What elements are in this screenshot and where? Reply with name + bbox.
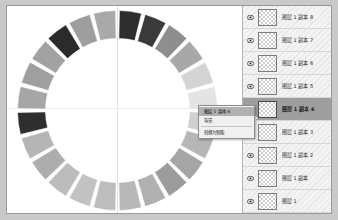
layer-row[interactable]: 图层 1 副本 6 [243, 52, 331, 75]
layers-panel[interactable]: 图层 1 副本 8 图层 1 副本 7 图层 1 副本 6 图层 1 副本 5 … [242, 6, 331, 213]
eye-icon[interactable] [243, 176, 258, 181]
eye-icon[interactable] [243, 38, 258, 43]
layer-name-label: 图层 1 副本 2 [282, 151, 331, 158]
eye-icon[interactable] [243, 84, 258, 89]
layer-thumbnail[interactable] [258, 78, 277, 95]
layer-name-label: 图层 1 副本 6 [282, 59, 331, 66]
eye-icon[interactable] [243, 15, 258, 20]
document-window-frame: 图层 1 副本 8 图层 1 副本 7 图层 1 副本 6 图层 1 副本 5 … [6, 5, 332, 214]
donut-ring-svg [15, 8, 220, 213]
context-menu-item[interactable]: 图层 1 副本 4 [199, 107, 254, 116]
eye-icon[interactable] [243, 199, 258, 204]
ring-segment[interactable] [93, 180, 116, 210]
eye-icon[interactable] [243, 61, 258, 66]
layer-row[interactable]: 图层 1 副本 7 [243, 29, 331, 52]
context-menu-item[interactable]: 背景 [199, 116, 254, 125]
layer-name-label: 图层 1 副本 4 [282, 105, 331, 112]
layer-thumbnail[interactable] [258, 147, 277, 164]
layer-name-label: 图层 1 副本 7 [282, 36, 331, 43]
layer-row[interactable]: 图层 1 副本 [243, 167, 331, 190]
layer-name-label: 图层 1 副本 [282, 174, 331, 181]
context-menu-separator [201, 126, 252, 127]
layer-thumbnail[interactable] [258, 124, 277, 141]
layer-row[interactable]: 图层 1 副本 2 [243, 144, 331, 167]
layer-row[interactable]: 图层 1 副本 8 [243, 6, 331, 29]
layer-thumbnail[interactable] [258, 32, 277, 49]
eye-icon[interactable] [243, 153, 258, 158]
layer-row[interactable]: 图层 1 副本 5 [243, 75, 331, 98]
ring-segment[interactable] [18, 86, 48, 109]
layer-thumbnail[interactable] [258, 55, 277, 72]
layer-thumbnail[interactable] [258, 193, 277, 210]
ring-segment[interactable] [18, 112, 48, 135]
ring-segment[interactable] [119, 11, 142, 41]
ring-segment[interactable] [119, 180, 142, 210]
layer-name-label: 图层 1 副本 5 [282, 82, 331, 89]
layer-thumbnail[interactable] [258, 101, 277, 118]
layer-name-label: 图层 1 副本 8 [282, 13, 331, 20]
application-window: 图层 1 副本 8 图层 1 副本 7 图层 1 副本 6 图层 1 副本 5 … [0, 0, 338, 220]
layer-row[interactable]: 图层 1 [243, 190, 331, 213]
layer-name-label: 图层 1 副本 3 [282, 128, 331, 135]
layer-list[interactable]: 图层 1 副本 8 图层 1 副本 7 图层 1 副本 6 图层 1 副本 5 … [243, 6, 331, 213]
donut-ring-chart[interactable] [15, 8, 220, 213]
context-menu-item[interactable]: 转换为智能 [199, 128, 254, 137]
layer-row[interactable]: 图层 1 副本 3 [243, 121, 331, 144]
layer-thumbnail[interactable] [258, 9, 277, 26]
layer-context-menu[interactable]: 图层 1 副本 4背景转换为智能 [198, 105, 255, 139]
ring-segment[interactable] [93, 11, 116, 41]
layer-thumbnail[interactable] [258, 170, 277, 187]
layer-name-label: 图层 1 [282, 197, 331, 204]
